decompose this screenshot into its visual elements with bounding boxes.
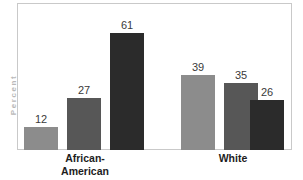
bar-value-label: 39 bbox=[192, 61, 204, 73]
bar: 39 bbox=[181, 75, 215, 150]
bar-value-label: 12 bbox=[35, 113, 47, 125]
plot-area: 122761393526 bbox=[18, 4, 291, 150]
bar-value-label: 26 bbox=[261, 86, 273, 98]
bar-value-label: 35 bbox=[235, 69, 247, 81]
bar: 12 bbox=[24, 127, 58, 150]
bar: 61 bbox=[110, 33, 144, 150]
bar-chart: Percent 122761393526 African- American W… bbox=[0, 0, 303, 180]
category-label-african-american: African- American bbox=[30, 152, 140, 178]
bar-value-label: 27 bbox=[78, 84, 90, 96]
bar-value-label: 61 bbox=[121, 19, 133, 31]
bar: 27 bbox=[67, 98, 101, 150]
category-label-white: White bbox=[183, 152, 283, 165]
bar: 26 bbox=[250, 100, 284, 150]
